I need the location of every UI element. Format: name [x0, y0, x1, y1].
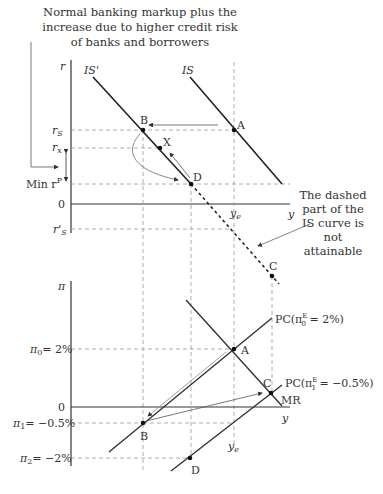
- pc0-curve: [109, 318, 272, 452]
- svg-text:0: 0: [58, 198, 65, 211]
- point-a-top: A: [236, 119, 246, 132]
- svg-text:π2= −2%: π2= −2%: [19, 452, 72, 466]
- diagram-svg: Normal banking markup plus the increase …: [0, 0, 383, 494]
- svg-text:rx: rx: [52, 141, 62, 155]
- point-b-bottom: B: [140, 430, 148, 443]
- dashed-note-pointer: [258, 224, 310, 246]
- is-prime-label: IS': [83, 64, 99, 77]
- y-axis-label-top: y: [287, 208, 295, 221]
- top-y-ticks: rS rx Min rP 0 r'S: [26, 124, 67, 237]
- pc1-curve: [171, 385, 282, 471]
- svg-text:π0= 2%: π0= 2%: [29, 343, 73, 357]
- svg-text:of banks and borrowers: of banks and borrowers: [71, 35, 210, 49]
- top-guides: [71, 62, 290, 470]
- pc1-label: PC(πE1 = −0.5%): [285, 376, 374, 392]
- svg-text:Min rP: Min rP: [26, 176, 63, 191]
- point-b-top: B: [140, 114, 148, 127]
- arrow-b-to-d: [132, 134, 178, 180]
- svg-text:increase due to higher credit: increase due to higher credit risk: [42, 20, 238, 34]
- svg-text:0: 0: [58, 401, 65, 414]
- point-d-bottom: D: [191, 464, 200, 477]
- ye-label-top: ye: [229, 207, 241, 221]
- svg-text:r'S: r'S: [53, 223, 67, 237]
- ye-label-bottom: ye: [227, 440, 239, 454]
- svg-text:rS: rS: [52, 124, 63, 138]
- is-label: IS: [181, 64, 194, 77]
- is-pc-mr-diagram: Normal banking markup plus the increase …: [0, 0, 383, 494]
- point-c-bottom: C: [263, 377, 271, 390]
- y-axis-label-bottom: y: [281, 412, 289, 425]
- svg-text:π1= −0.5%: π1= −0.5%: [12, 417, 75, 431]
- is-prime-dashed: [191, 184, 279, 284]
- svg-text:Normal banking markup plus the: Normal banking markup plus the: [43, 5, 237, 19]
- svg-text:part of the: part of the: [302, 202, 364, 216]
- r-axis-label: r: [60, 60, 66, 73]
- point-d-top: D: [193, 171, 202, 184]
- svg-text:IS curve is: IS curve is: [302, 216, 364, 230]
- pc0-label: PC(πE0 = 2%): [275, 312, 344, 328]
- bottom-y-ticks: π0= 2% 0 π1= −0.5% π2= −2%: [12, 343, 75, 466]
- dashed-note: The dashed part of the IS curve is not a…: [299, 188, 367, 258]
- point-a-bottom: A: [240, 344, 250, 357]
- mr-label: MR: [281, 394, 301, 407]
- svg-text:not: not: [324, 230, 343, 244]
- pi-axis-label: π: [57, 280, 66, 293]
- svg-text:attainable: attainable: [304, 244, 363, 258]
- point-c-top: C: [269, 260, 277, 273]
- svg-text:The dashed: The dashed: [299, 188, 367, 202]
- point-x: X: [163, 136, 171, 149]
- top-annotation: Normal banking markup plus the increase …: [42, 5, 238, 49]
